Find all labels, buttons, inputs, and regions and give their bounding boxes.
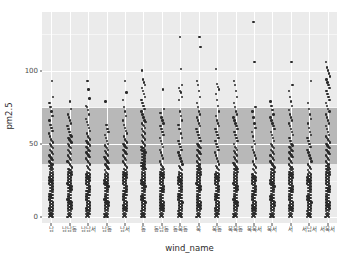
data-point [288, 151, 290, 153]
data-point [142, 105, 144, 107]
data-point [181, 137, 183, 139]
data-point [199, 140, 201, 142]
data-point [181, 96, 183, 98]
data-point [67, 154, 69, 156]
data-point [85, 146, 87, 148]
data-point [199, 96, 201, 98]
data-point [162, 157, 164, 159]
data-point [48, 193, 50, 195]
data-point [68, 116, 70, 118]
data-point [162, 122, 164, 124]
y-axis-tick-label: 100 [25, 67, 38, 75]
data-point [326, 66, 328, 68]
data-point [48, 102, 50, 104]
data-point [125, 91, 127, 93]
data-point [216, 146, 218, 148]
data-point [328, 110, 330, 112]
data-point [142, 116, 144, 118]
data-point [48, 160, 50, 162]
data-point [325, 135, 327, 137]
x-axis-tick-label: 북서 [267, 227, 277, 232]
data-point [125, 130, 127, 132]
data-point [233, 102, 235, 104]
data-point [325, 61, 327, 63]
data-point [254, 127, 256, 129]
data-point [105, 124, 107, 126]
data-point [159, 160, 161, 162]
data-point [178, 171, 180, 173]
data-point [290, 100, 292, 102]
x-axis-tick-label: 남동 [102, 227, 112, 232]
data-point [123, 135, 125, 137]
data-point [328, 87, 330, 89]
data-point [306, 137, 308, 139]
data-point [269, 116, 271, 118]
data-point [107, 131, 109, 133]
data-point [103, 156, 105, 158]
data-point [48, 154, 50, 156]
data-point [178, 143, 180, 145]
x-axis-tick-label: 서 [288, 227, 293, 232]
x-axis-tick-label: 남남동 [62, 227, 77, 232]
data-point [288, 122, 290, 124]
data-point [162, 134, 164, 136]
x-axis-tick-label: 북 [196, 227, 201, 232]
data-point [215, 143, 217, 145]
data-point [160, 163, 162, 165]
data-point [141, 140, 143, 142]
data-point [326, 81, 328, 83]
data-point [290, 116, 292, 118]
data-point [217, 149, 219, 151]
data-point [269, 160, 271, 162]
x-axis: 남남남동남남서남동남서동동남동동북동북북동북북동북북서북서서서남서서북서 [42, 223, 337, 245]
data-point [143, 81, 145, 83]
scatter-chart: pm2.5 050100 남남남동남남서남동남서동동남동동북동북북동북북동북북서… [0, 0, 351, 260]
data-point [104, 144, 106, 146]
data-point [232, 162, 234, 164]
data-point [289, 140, 291, 142]
data-point [269, 154, 271, 156]
y-axis-tick-label: 50 [29, 140, 38, 148]
data-point [253, 61, 255, 63]
data-point [234, 134, 236, 136]
data-point [181, 163, 183, 165]
data-point [306, 195, 308, 197]
data-point [269, 100, 271, 102]
data-point [310, 80, 312, 82]
data-point [70, 108, 72, 110]
data-point [69, 119, 71, 121]
data-point [123, 168, 125, 170]
x-axis-tick-label: 동 [141, 227, 146, 232]
data-point [291, 119, 293, 121]
data-point [179, 157, 181, 159]
data-point [288, 163, 290, 165]
data-point [306, 149, 308, 151]
data-point [177, 124, 179, 126]
data-point [235, 110, 237, 112]
y-axis: 050100 [16, 12, 42, 223]
data-point [251, 110, 253, 112]
plot-panel [42, 12, 337, 223]
data-point [198, 36, 200, 38]
data-point [218, 88, 220, 90]
data-point [179, 110, 181, 112]
data-point [309, 146, 311, 148]
data-point [85, 151, 87, 153]
data-point [199, 113, 201, 115]
data-point [197, 119, 199, 121]
data-point [252, 116, 254, 118]
data-point [329, 75, 331, 77]
data-point [177, 151, 179, 153]
data-point [178, 154, 180, 156]
data-point [179, 146, 181, 148]
data-point [198, 122, 200, 124]
data-point [49, 149, 51, 151]
data-point [122, 119, 124, 121]
data-point [308, 143, 310, 145]
data-point [328, 72, 330, 74]
data-point [196, 116, 198, 118]
data-point [49, 124, 51, 126]
data-point [271, 122, 273, 124]
data-point [50, 110, 52, 112]
data-point [309, 157, 311, 159]
